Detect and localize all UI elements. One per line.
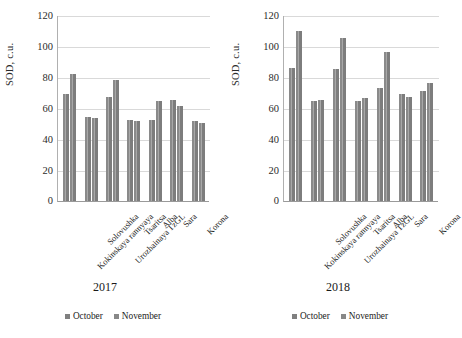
bar-group <box>333 16 346 201</box>
bar-series-container-2017 <box>59 16 209 201</box>
y-tick-120: 120 <box>37 11 53 22</box>
x-axis-labels-2018: Kokinskaya rannyaya Solovushka Urozhaina… <box>227 205 453 273</box>
bar-november <box>70 74 76 201</box>
bar-group <box>355 16 368 201</box>
bar-group <box>106 16 119 201</box>
bar-group <box>85 16 98 201</box>
bar-october <box>420 91 426 201</box>
bar-group <box>192 16 205 201</box>
legend-label-october: October <box>73 311 103 321</box>
bar-october <box>311 101 317 201</box>
bar-group <box>289 16 302 201</box>
bar-november <box>340 38 346 201</box>
bar-group <box>377 16 390 201</box>
bar-november <box>134 121 140 201</box>
bar-october <box>106 97 112 201</box>
bar-group <box>311 16 324 201</box>
bar-november <box>199 123 205 201</box>
bar-november <box>156 101 162 201</box>
gridline-0: 0 <box>58 201 210 202</box>
legend-item-november: November <box>114 311 161 321</box>
bar-november <box>427 83 433 201</box>
bar-november <box>362 98 368 201</box>
y-tick-80: 80 <box>43 73 54 84</box>
bar-october <box>355 101 361 201</box>
bar-october <box>63 94 69 201</box>
x-label-5: Sara <box>412 212 429 229</box>
bar-november <box>92 118 98 201</box>
bar-october <box>127 120 133 201</box>
bar-november <box>177 106 183 201</box>
bar-october <box>377 88 383 201</box>
legend-item-october: October <box>65 311 103 321</box>
bar-group <box>63 16 76 201</box>
x-axis-labels-2017: Kokinskaya rannyaya Solovushka Urozhaina… <box>0 205 226 273</box>
y-tick-120: 120 <box>263 11 279 22</box>
legend-swatch-october-icon <box>292 314 297 319</box>
legend-swatch-november-icon <box>341 314 346 319</box>
bar-november <box>113 80 119 201</box>
gridline-0: 0 <box>284 201 439 202</box>
chart-panel-2017: SOD, c.u. 120 100 80 60 40 20 0 <box>0 0 226 338</box>
chart-title-2018: 2018 <box>225 280 451 295</box>
legend-2018: October November <box>227 311 453 321</box>
legend-label-november: November <box>122 311 161 321</box>
bar-october <box>192 121 198 201</box>
legend-swatch-october-icon <box>65 314 70 319</box>
bar-october <box>149 120 155 201</box>
bar-october <box>85 117 91 201</box>
bar-october <box>170 100 176 201</box>
bar-november <box>406 97 412 201</box>
y-axis-title-right: SOD, c.u. <box>230 43 241 86</box>
y-tick-100: 100 <box>263 42 279 53</box>
legend-2017: October November <box>0 311 226 321</box>
y-tick-20: 20 <box>269 166 280 177</box>
bar-october <box>333 69 339 201</box>
bar-october <box>289 68 295 201</box>
bar-group <box>149 16 162 201</box>
y-tick-80: 80 <box>269 73 280 84</box>
bar-group <box>420 16 433 201</box>
bar-october <box>399 94 405 201</box>
bar-group <box>399 16 412 201</box>
bar-group <box>127 16 140 201</box>
y-axis-title-left: SOD, c.u. <box>4 43 15 86</box>
bar-november <box>384 52 390 201</box>
legend-item-november: November <box>341 311 388 321</box>
legend-label-october: October <box>300 311 330 321</box>
y-tick-60: 60 <box>43 104 54 115</box>
plot-area-2017: 120 100 80 60 40 20 0 <box>57 16 209 202</box>
legend-label-november: November <box>349 311 388 321</box>
y-tick-100: 100 <box>37 42 53 53</box>
y-tick-40: 40 <box>269 135 280 146</box>
chart-title-2017: 2017 <box>0 280 218 295</box>
y-tick-40: 40 <box>43 135 54 146</box>
bar-group <box>170 16 183 201</box>
y-tick-20: 20 <box>43 166 54 177</box>
bar-series-container-2018 <box>285 16 438 201</box>
y-tick-60: 60 <box>269 104 280 115</box>
legend-item-october: October <box>292 311 330 321</box>
x-label-5: Sara <box>181 212 198 229</box>
legend-swatch-november-icon <box>114 314 119 319</box>
bar-november <box>318 100 324 201</box>
x-label-6: Korona <box>438 212 462 236</box>
bar-november <box>296 31 302 201</box>
plot-area-2018: 120 100 80 60 40 20 0 <box>283 16 438 202</box>
chart-panel-2018: SOD, c.u. 120 100 80 60 40 20 0 <box>227 0 453 338</box>
